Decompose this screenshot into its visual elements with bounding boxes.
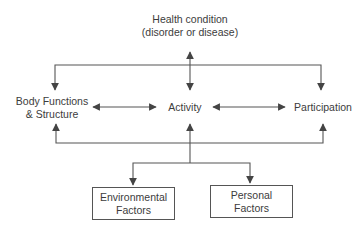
- activity-node: Activity: [160, 101, 210, 114]
- environmental-line1: Environmental: [100, 191, 167, 204]
- bottom-bus-left: [56, 124, 190, 143]
- top-bus-left: [55, 65, 190, 90]
- environmental-factors-box: Environmental Factors: [92, 187, 175, 220]
- body-functions-line1: Body Functions: [12, 95, 92, 108]
- health-condition-subtitle: (disorder or disease): [130, 26, 250, 39]
- top-bus-right: [190, 65, 321, 90]
- health-condition-title: Health condition: [130, 13, 250, 26]
- branch-personal: [190, 163, 250, 183]
- personal-line1: Personal: [231, 189, 272, 202]
- personal-factors-box: Personal Factors: [210, 185, 293, 218]
- health-condition-node: Health condition (disorder or disease): [130, 13, 250, 39]
- body-functions-line2: & Structure: [12, 108, 92, 121]
- bottom-bus-right: [190, 124, 323, 143]
- personal-line2: Factors: [234, 202, 269, 215]
- participation-node: Participation: [290, 101, 356, 114]
- branch-environmental: [133, 163, 190, 185]
- environmental-line2: Factors: [116, 204, 151, 217]
- body-functions-node: Body Functions & Structure: [12, 95, 92, 121]
